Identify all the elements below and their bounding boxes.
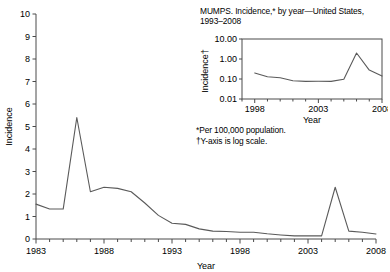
inset-y-tick-labels: 0.010.101.0010.00 (214, 34, 237, 104)
inset-chart: 0.010.101.0010.00 199820032008 Incidence… (196, 33, 388, 128)
footnote-log-scale: †Y-axis is log scale. (196, 136, 386, 147)
y-axis-ticks (33, 14, 37, 239)
inset-y-axis-title: Incidence† (200, 49, 210, 93)
inset-title-line1: MUMPS. Incidence,* by year—United States… (200, 6, 364, 16)
inset-x-tick-label: 2003 (308, 104, 328, 114)
x-tick-label: 1998 (230, 246, 250, 256)
y-tick-label: 10 (20, 9, 30, 19)
inset-plot-frame (242, 39, 382, 99)
footnotes: *Per 100,000 population. †Y-axis is log … (196, 125, 386, 146)
y-axis-title: Incidence (4, 107, 14, 146)
inset-y-tick-label: 0.01 (219, 94, 237, 104)
x-tick-label: 2003 (298, 246, 318, 256)
y-axis-tick-labels: 012345678910 (20, 9, 30, 244)
y-tick-label: 4 (25, 144, 30, 154)
footnote-per-population: *Per 100,000 population. (196, 125, 386, 136)
y-tick-label: 0 (25, 234, 30, 244)
inset-title-line2: 1993–2008 (200, 16, 241, 26)
x-tick-label: 1993 (162, 246, 182, 256)
x-axis-ticks (36, 239, 376, 244)
inset-data-series (255, 53, 382, 81)
inset-y-tick-label: 1.00 (219, 54, 237, 64)
x-tick-label: 1983 (26, 246, 46, 256)
inset-x-ticks (242, 99, 382, 103)
x-tick-label: 1988 (94, 246, 114, 256)
inset-block: MUMPS. Incidence,* by year—United States… (196, 6, 388, 158)
inset-x-tick-label: 2008 (372, 104, 388, 114)
inset-x-axis-title: Year (303, 115, 321, 125)
inset-title: MUMPS. Incidence,* by year—United States… (200, 6, 390, 26)
y-tick-label: 9 (25, 32, 30, 42)
y-tick-label: 1 (25, 212, 30, 222)
x-axis-title: Year (197, 261, 215, 271)
inset-x-tick-label: 1998 (245, 104, 265, 114)
inset-y-tick-label: 0.10 (219, 74, 237, 84)
y-tick-label: 7 (25, 77, 30, 87)
chart-page: 012345678910 198319881993199820032008 In… (0, 0, 390, 272)
y-tick-label: 8 (25, 54, 30, 64)
inset-x-tick-labels: 199820032008 (245, 104, 388, 114)
y-tick-label: 3 (25, 167, 30, 177)
inset-y-tick-label: 10.00 (214, 34, 237, 44)
y-tick-label: 6 (25, 99, 30, 109)
x-axis-tick-labels: 198319881993199820032008 (26, 246, 386, 256)
y-tick-label: 2 (25, 189, 30, 199)
y-tick-label: 5 (25, 122, 30, 132)
x-tick-label: 2008 (366, 246, 386, 256)
